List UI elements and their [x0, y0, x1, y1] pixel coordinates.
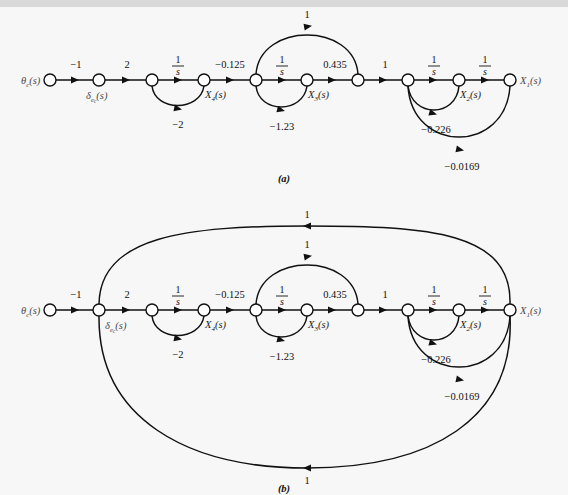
x-tail: (s) [470, 89, 482, 101]
gain-label-a-frac4: 1 s [479, 54, 491, 77]
node-label-a-x1: X1(s) [519, 75, 542, 89]
frac-denominator: s [176, 296, 180, 307]
gain-label-a-two: 2 [124, 59, 129, 70]
gain-label-b-outer-bottom-one: 1 [304, 475, 309, 486]
frac-denominator: s [176, 66, 180, 77]
node-label-a-x4: X4(s) [204, 89, 227, 103]
node-label-b-delta: δec(s) [105, 320, 127, 334]
node-label-a-theta: θc(s) [21, 75, 41, 89]
gain-label-b-minus0226: −0.226 [421, 354, 451, 365]
frac-denominator: s [432, 296, 436, 307]
frac-denominator: s [432, 66, 436, 77]
gain-label-b-frac2: 1 s [276, 284, 288, 307]
gain-label-b-outer-top-one: 1 [304, 209, 309, 220]
frac-numerator: 1 [176, 54, 181, 65]
panel-a: −1 2 1 s −0.125 1 s 0.435 1 1 s [21, 9, 542, 185]
gain-label-b-minus2: −2 [172, 349, 183, 360]
gain-label-a-frac3: 1 s [428, 54, 440, 77]
x-tail: (s) [318, 319, 330, 331]
gain-label-b-frac3: 1 s [428, 284, 440, 307]
x-tail: (s) [215, 89, 227, 101]
node-label-b-x1: X1(s) [519, 305, 542, 319]
delta-tail: (s) [115, 320, 127, 332]
node-label-b-x2: X2(s) [459, 319, 482, 333]
x-tail: (s) [470, 319, 482, 331]
caption-a: (a) [278, 173, 290, 185]
gain-label-a-frac1: 1 s [172, 54, 184, 77]
node-label-a-x3: X3(s) [307, 89, 330, 103]
x-tail: (s) [318, 89, 330, 101]
node-label-a-delta: δec(s) [86, 90, 108, 104]
frac-denominator: s [280, 66, 284, 77]
gain-label-b-two: 2 [124, 289, 129, 300]
gain-label-a-minus1: −1 [70, 59, 81, 70]
theta-tail: (s) [29, 305, 41, 317]
frac-numerator: 1 [176, 284, 181, 295]
gain-label-a-one: 1 [382, 59, 387, 70]
frac-numerator: 1 [483, 284, 488, 295]
node-label-b-x4: X4(s) [204, 319, 227, 333]
frac-numerator: 1 [483, 54, 488, 65]
panel-b: −1 2 1 s −0.125 1 s 0.435 1 1 s 1 [21, 209, 542, 495]
frac-denominator: s [483, 296, 487, 307]
gain-label-b-minus1: −1 [70, 289, 81, 300]
gain-label-b-minus123: −1.23 [270, 351, 294, 362]
x-tail: (s) [215, 319, 227, 331]
frac-numerator: 1 [280, 284, 285, 295]
gain-label-b-0435: 0.435 [323, 289, 347, 300]
figure-root: −1 2 1 s −0.125 1 s 0.435 1 1 s [0, 0, 568, 495]
gain-label-a-top-one: 1 [304, 9, 309, 20]
node-label-b-theta: θc(s) [21, 305, 41, 319]
frac-denominator: s [280, 296, 284, 307]
frac-numerator: 1 [280, 54, 285, 65]
gain-label-b-minus00169: −0.0169 [445, 391, 480, 402]
gain-label-a-minus0226: −0.226 [421, 124, 451, 135]
panel-b-outer-top-loop [99, 223, 510, 304]
gain-label-b-one: 1 [382, 289, 387, 300]
x-tail: (s) [530, 305, 542, 317]
gain-label-b-frac4: 1 s [479, 284, 491, 307]
frac-numerator: 1 [432, 284, 437, 295]
node-label-a-x2: X2(s) [459, 89, 482, 103]
gain-label-a-minus2: −2 [172, 119, 183, 130]
gain-label-b-inner-top-one: 1 [304, 239, 309, 250]
gain-label-a-frac2: 1 s [276, 54, 288, 77]
gain-label-b-minus0125: −0.125 [215, 289, 245, 300]
signal-flow-graph-svg: −1 2 1 s −0.125 1 s 0.435 1 1 s [0, 0, 568, 495]
x-tail: (s) [530, 75, 542, 87]
gain-label-a-minus123: −1.23 [270, 121, 294, 132]
delta-tail: (s) [96, 90, 108, 102]
caption-b: (b) [278, 483, 290, 495]
frac-numerator: 1 [432, 54, 437, 65]
theta-tail: (s) [29, 75, 41, 87]
gain-label-a-minus00169: −0.0169 [445, 161, 480, 172]
gain-label-b-frac1: 1 s [172, 284, 184, 307]
gain-label-a-0435: 0.435 [323, 59, 347, 70]
node-label-b-x3: X3(s) [307, 319, 330, 333]
frac-denominator: s [483, 66, 487, 77]
gain-label-a-minus0125: −0.125 [215, 59, 245, 70]
